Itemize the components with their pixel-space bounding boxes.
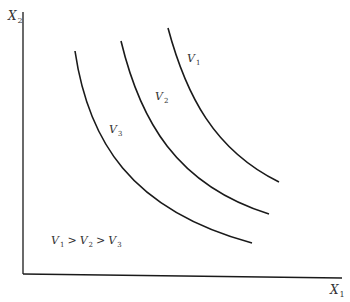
curve-v1 <box>168 28 279 182</box>
curve-v1-label: V1 <box>187 52 200 67</box>
x-axis <box>23 274 342 278</box>
diagram-svg: X2 X1 V1 V2 V3 V1>V2>V3 <box>0 0 350 302</box>
x-axis-label: X1 <box>329 283 345 299</box>
relation-annotation: V1>V2>V3 <box>51 234 122 249</box>
curve-v3 <box>75 51 252 243</box>
diagram-canvas: X2 X1 V1 V2 V3 V1>V2>V3 <box>0 0 350 302</box>
curve-v3-label: V3 <box>109 123 122 138</box>
y-axis-label: X2 <box>7 9 23 25</box>
curve-v2-label: V2 <box>155 90 168 105</box>
